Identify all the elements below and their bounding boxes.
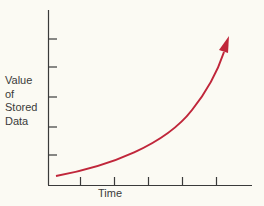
growth-curve	[56, 52, 224, 176]
y-label-line: Value	[5, 74, 37, 88]
y-label-line: Stored	[5, 101, 37, 115]
x-axis	[48, 177, 252, 186]
y-axis-label: Value of Stored Data	[5, 74, 37, 128]
x-axis-label: Time	[98, 187, 122, 199]
chart-canvas	[0, 0, 264, 206]
arrowhead-icon	[219, 36, 229, 53]
y-label-line: of	[5, 88, 37, 102]
y-axis	[49, 10, 58, 185]
y-label-line: Data	[5, 115, 37, 129]
